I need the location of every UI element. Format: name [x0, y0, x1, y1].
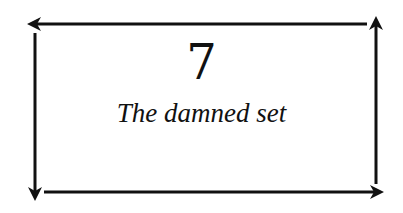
chapter-number: 7 [0, 38, 403, 86]
chapter-title: The damned set [0, 98, 403, 128]
